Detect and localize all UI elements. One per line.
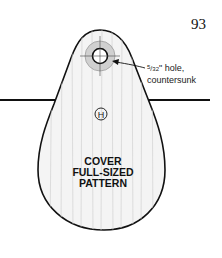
- hole-note-suffix: " hole,: [159, 63, 184, 73]
- part-letter: H: [98, 110, 105, 120]
- hole-note-line2: countersunk: [147, 75, 197, 85]
- pattern-diagram: 5/32" hole, countersunk H COVER FULL-SIZ…: [0, 0, 222, 258]
- hole-note-line1: 5/32" hole,: [147, 63, 184, 73]
- pattern-title-line3: PATTERN: [79, 177, 127, 189]
